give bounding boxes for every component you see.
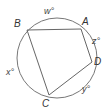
arc-label-y: y° (81, 84, 91, 94)
arc-label-w: w° (44, 6, 54, 16)
vertex-label-A: A (81, 16, 89, 27)
vertex-label-B: B (14, 18, 21, 29)
arc-label-z: z° (91, 36, 101, 46)
inscribed-quadrilateral-diagram: B A D C w° z° y° x° (0, 0, 105, 108)
vertex-label-D: D (94, 56, 101, 67)
arc-label-x: x° (5, 67, 15, 77)
vertex-label-C: C (42, 98, 50, 108)
